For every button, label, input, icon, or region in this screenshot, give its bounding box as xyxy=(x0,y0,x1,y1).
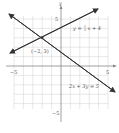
intersection-point xyxy=(41,37,44,40)
tick-label-y-max: 5 xyxy=(55,16,58,22)
eq1-frac-den: 2 xyxy=(84,28,86,32)
eq1-lhs: y = xyxy=(72,25,82,32)
tick-label-x-max: 5 xyxy=(106,69,109,75)
intersection-label: (−2, 3) xyxy=(31,48,49,54)
equation-label-line-2: 2x + 3y = 5 xyxy=(68,83,99,90)
equation-label-line-1: y = 1 2 x + 4 xyxy=(72,24,101,32)
eq1-rhs: x + 4 xyxy=(88,25,101,31)
tick-label-x-min: −5 xyxy=(10,69,17,75)
coordinate-graph: y −5 5 5 −5 (−2, 3) y = 1 2 x + 4 2x + 3… xyxy=(0,0,119,133)
x-axis-arrow-icon xyxy=(113,65,117,68)
y-axis-label: y xyxy=(58,0,62,7)
tick-label-y-min: −5 xyxy=(52,110,59,116)
